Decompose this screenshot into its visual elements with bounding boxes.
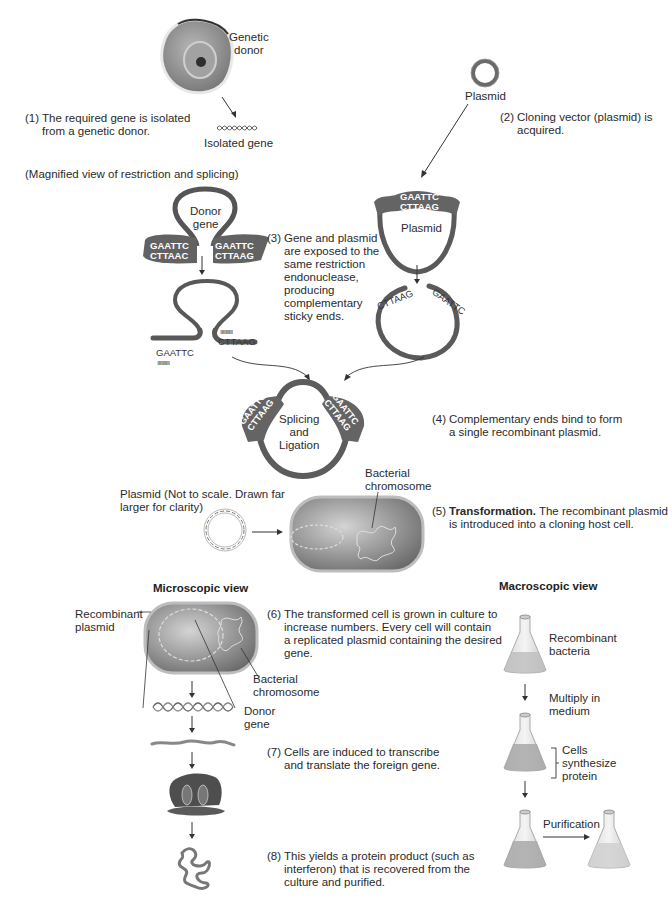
leader-line (370, 492, 380, 532)
arrow-icon (521, 684, 529, 702)
sticky-end-ticks: ıııııııııı (220, 325, 232, 338)
donor-right-sequence: GAATTC CTTAAG (215, 241, 254, 261)
protein-product-icon (174, 843, 214, 885)
bracket-icon (551, 747, 559, 779)
donor-gene-helix-icon (152, 700, 234, 714)
donor-gene-label-2: Donor gene (244, 705, 275, 731)
recombinant-bacteria-label: Recombinant bacteria (549, 632, 617, 658)
arrow-icon (543, 833, 591, 841)
arrow-icon (188, 681, 196, 699)
plasmid-site-sequence: GAATTC CTTAAG (400, 192, 439, 212)
arrow-icon (188, 752, 196, 770)
donor-left-sequence: GAATTC CTTAAC (150, 241, 189, 261)
microscopic-view-heading: Microscopic view (153, 582, 248, 595)
step-6-text: (6) The transformed cell is grown in cul… (267, 608, 502, 660)
bacterial-host-cell-icon (287, 495, 427, 573)
ribosome-icon (165, 771, 227, 823)
plasmid-label: Plasmid (465, 90, 506, 103)
cells-synthesize-label: Cells synthesize protein (562, 744, 616, 783)
isolated-gene-icon (216, 124, 258, 132)
magnified-view-caption: (Magnified view of restriction and splic… (25, 168, 238, 181)
step-5-text: (5) Transformation. The recombinant plas… (432, 505, 668, 531)
step-4-text: (4) Complementary ends bind to form a si… (432, 413, 622, 439)
sticky-end-ticks: ıııııııııı (157, 356, 169, 369)
arrow-icon (252, 528, 284, 536)
flask-culture-icon (502, 712, 548, 774)
splicing-label: Splicing and Ligation (279, 413, 319, 452)
genetic-donor-cell-icon (158, 18, 234, 96)
genetic-donor-label: Genetic donor (229, 31, 269, 57)
arrow-icon (220, 96, 240, 120)
step-2-text: (2) Cloning vector (plasmid) is acquired… (500, 111, 653, 137)
plasmid-ring-icon (470, 58, 500, 88)
recombinant-plasmid-label: Recombinant plasmid (75, 608, 143, 634)
step-1-text: (1) The required gene is isolated from a… (25, 112, 190, 138)
plasmid-dna-loop-icon (200, 505, 250, 555)
mrna-strand-icon (150, 738, 236, 748)
plasmid-cut-label: Plasmid (401, 222, 442, 235)
arrow-icon (418, 103, 470, 181)
step-7-text: (7) Cells are induced to transcribe and … (267, 746, 440, 772)
arrow-icon (521, 781, 529, 799)
arrow-icon (188, 716, 196, 734)
step-8-text: (8) This yields a protein product (such … (267, 850, 474, 889)
step-3-text: (3) Gene and plasmid are exposed to the … (267, 232, 379, 323)
isolated-gene-label: Isolated gene (204, 137, 273, 150)
flask-purified-icon (586, 809, 632, 871)
multiply-label: Multiply in medium (549, 692, 600, 718)
macroscopic-view-heading: Macroscopic view (499, 580, 597, 593)
bacterial-chromosome-label-1: Bacterial chromosome (365, 467, 431, 493)
arrow-icon (188, 822, 196, 840)
flask-recombinant-icon (502, 614, 548, 676)
donor-gene-label: Donor gene (190, 205, 221, 231)
arrow-icon (198, 256, 206, 276)
cut-plasmid-strand (375, 280, 465, 362)
bacterial-chromosome-label-2: Bacterial chromosome (253, 673, 319, 699)
flask-before-purification-icon (502, 809, 548, 871)
